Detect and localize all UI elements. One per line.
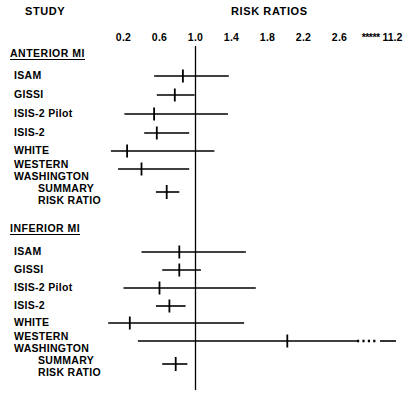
study-marker [124,282,256,295]
study-marker [118,163,189,176]
study-marker [138,335,396,348]
study-marker [144,127,189,140]
plot-canvas [0,0,413,406]
study-marker [108,317,244,330]
study-marker [157,89,195,102]
summary-marker [162,357,187,371]
study-marker [111,145,214,158]
summary-marker [156,185,179,199]
study-marker [154,70,229,83]
study-marker [124,108,227,121]
study-marker [142,246,246,259]
study-marker [156,300,186,313]
